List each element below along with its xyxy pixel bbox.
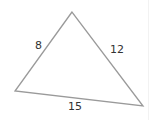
side-label-bottom: 15 (68, 101, 82, 112)
side-label-right: 12 (110, 44, 124, 55)
triangle-shape (15, 12, 143, 106)
side-label-left: 8 (35, 40, 42, 51)
